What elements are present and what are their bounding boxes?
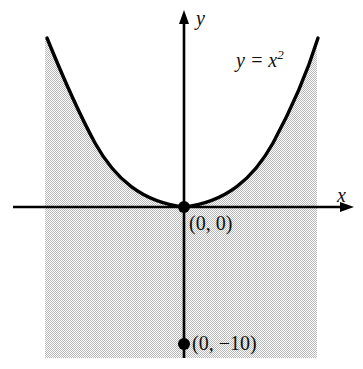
plot-canvas [0,0,363,369]
lower-point-label: (0, −10) [192,333,257,353]
y-axis-label: y [196,8,205,28]
curve-equation-label: y = x2 [236,48,284,70]
point-marker-zero-minus-ten [178,338,190,350]
shaded-region [45,38,318,358]
curve-equation-exponent: 2 [277,47,284,62]
parabola-figure: y x y = x2 (0, 0) (0, −10) [0,0,363,369]
curve-equation-base: y = x [236,49,277,71]
origin-point-label: (0, 0) [189,213,232,233]
x-axis-label: x [337,185,346,205]
